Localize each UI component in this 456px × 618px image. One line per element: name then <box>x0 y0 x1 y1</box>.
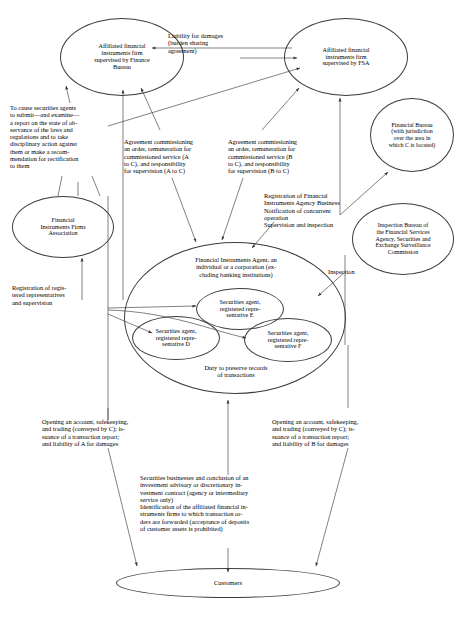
leader-cause-agents-right <box>92 176 100 196</box>
edge-label-cause-securities-agents-report: To cause securities agents to submit—and… <box>10 104 120 170</box>
securities-agent-rep-e-label: Securities agent, registered repre- sent… <box>216 299 265 320</box>
leader-cause-agents-left <box>58 176 62 196</box>
financial-instruments-firms-association-node[interactable]: Financial Instruments Firms Association <box>12 196 114 258</box>
affiliated-firm-finance-bureau-node[interactable]: Affiliated financial instruments firm su… <box>60 18 184 96</box>
securities-agent-rep-d-label: Securities agent, registered repre- sent… <box>152 328 201 349</box>
leader-agreement-a-to-c <box>141 88 160 130</box>
edge-label-agreement-a-to-c: Agreement commissioning an order, remune… <box>124 138 236 174</box>
affiliated-firm-finance-bureau-label: Affiliated financial instruments firm su… <box>90 43 153 71</box>
financial-bureau-label: Financial Bureau (with jurisdiction over… <box>385 122 440 149</box>
edge-label-registration-representatives: Registration of regis- tered representat… <box>12 284 112 306</box>
financial-bureau-node[interactable]: Financial Bureau (with jurisdiction over… <box>370 98 454 172</box>
diagram-canvas: Affiliated financial instruments firm su… <box>0 0 456 618</box>
edge-label-registration-agency-business: Registration of Financial Instruments Ag… <box>264 192 396 228</box>
financial-instruments-agent-label: Financial Instruments Agent, an individu… <box>150 256 322 278</box>
edge-cause-agents-to-firm-a <box>66 86 70 103</box>
affiliated-firm-fsa-label: Affiliated financial instruments firm su… <box>318 47 373 68</box>
edge-label-opening-account-liability-a: Opening an account, safekeeping, and tra… <box>42 418 178 447</box>
edge-opening-account-a-to-customers <box>108 448 137 566</box>
securities-agent-rep-f-label: Securities agent, registered repre- sent… <box>264 330 313 351</box>
securities-agent-rep-f-node[interactable]: Securities agent, registered repre- sent… <box>244 318 332 362</box>
edge-label-inspection: Inspection <box>328 268 374 275</box>
financial-instruments-firms-association-label: Financial Instruments Firms Association <box>36 217 89 238</box>
securities-agent-rep-d-node[interactable]: Securities agent, registered repre- sent… <box>132 316 220 360</box>
edge-label-opening-account-liability-b: Opening an account, safekeeping, and tra… <box>272 418 412 447</box>
leader-agreement-b-to-c-down <box>222 178 243 240</box>
customers-label: Customers <box>210 579 246 586</box>
edge-label-agreement-b-to-c: Agreement commissioning an order, remune… <box>228 138 340 174</box>
leader-agreement-a-to-c-down <box>172 178 196 242</box>
leader-agreement-b-to-c <box>262 88 299 130</box>
edge-label-securities-businesses-identification: Securities businesses and conclusion of … <box>140 474 324 532</box>
duty-preserve-records-label: Duty to preserve records of transactions <box>154 364 318 379</box>
edge-label-liability-for-damages: Liability for damages (burden sharing ag… <box>168 32 280 54</box>
affiliated-firm-fsa-node[interactable]: Affiliated financial instruments firm su… <box>284 18 408 96</box>
customers-node[interactable]: Customers <box>116 568 340 598</box>
